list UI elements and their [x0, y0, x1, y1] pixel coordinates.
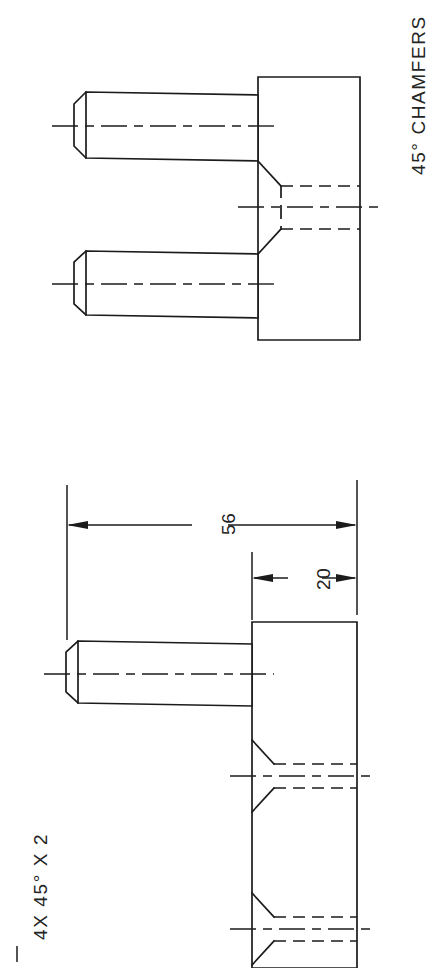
- arrow-56-left: [67, 521, 88, 529]
- arrow-56-right: [336, 521, 357, 529]
- arrow-20-right: [336, 574, 357, 582]
- block-body-outline-top: [258, 77, 360, 340]
- dimension-group: [67, 480, 357, 640]
- dimension-value-56: 56: [218, 512, 240, 535]
- drawing-canvas: [0, 0, 436, 968]
- view-top: [52, 77, 382, 340]
- arrow-20-left: [252, 574, 273, 582]
- dimension-value-20: 20: [313, 567, 335, 590]
- note-chamfer-callout: 4X 45° X 2: [30, 833, 52, 940]
- note-45-chamfers: 45° CHAMFERS: [408, 15, 430, 175]
- drawing-sheet: 45° CHAMFERS 4X 45° X 2 56 20: [0, 0, 436, 968]
- view-bottom: [44, 622, 375, 968]
